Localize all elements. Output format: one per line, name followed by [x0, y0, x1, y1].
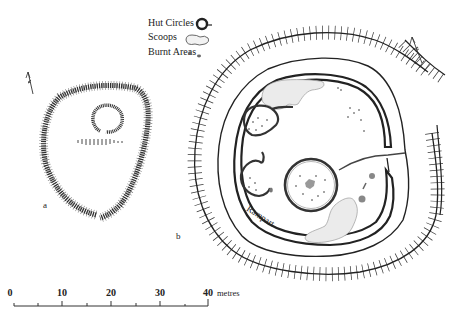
enclosure-bank: [44, 85, 149, 218]
hut-circle-symbol: [197, 19, 212, 29]
plan-a: a: [26, 72, 148, 218]
scoop-symbol: [186, 35, 209, 45]
plan-b: Rampart: [195, 33, 445, 275]
legend: Hut Circles Scoops Burnt Areas: [148, 17, 212, 57]
scale-tick-30: 30: [155, 287, 165, 298]
scale-tick-0: 0: [8, 287, 13, 298]
post-hole-row: [78, 139, 122, 145]
burnt-area-2: [359, 196, 366, 203]
burnt-area-3: [269, 188, 273, 193]
scale-bar: 0 10 20 30 40 metres: [8, 287, 240, 306]
legend-label-burnt-areas: Burnt Areas: [148, 46, 196, 57]
site-plan-figure: Hut Circles Scoops Burnt Areas: [0, 0, 456, 325]
plan-a-label: a: [43, 200, 47, 210]
scale-tick-10: 10: [57, 287, 67, 298]
scale-unit: metres: [217, 288, 240, 298]
legend-label-scoops: Scoops: [148, 31, 177, 42]
legend-label-hut-circles: Hut Circles: [148, 17, 194, 28]
burnt-area-1: [369, 173, 375, 179]
plan-b-label: b: [176, 231, 181, 241]
scale-tick-20: 20: [106, 287, 116, 298]
scale-tick-40: 40: [203, 287, 213, 298]
north-arrow-icon: [26, 72, 33, 94]
hut-circle: [93, 105, 122, 132]
